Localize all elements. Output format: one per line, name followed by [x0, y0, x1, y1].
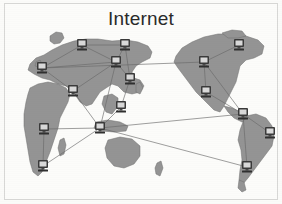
landmass-north-america	[174, 34, 264, 112]
figure-title: Internet	[0, 8, 282, 30]
computer-icon[interactable]	[114, 99, 128, 114]
computer-icon[interactable]	[75, 37, 89, 52]
landmass-scandinavia	[50, 32, 64, 44]
computer-icon[interactable]	[199, 84, 213, 99]
computer-icon[interactable]	[123, 71, 137, 86]
computer-icon[interactable]	[35, 60, 49, 75]
computer-icon[interactable]	[118, 37, 132, 52]
computer-icon[interactable]	[236, 106, 250, 121]
network-link	[100, 114, 243, 128]
computer-icon[interactable]	[66, 83, 80, 98]
computer-icon[interactable]	[240, 159, 254, 174]
computer-icon[interactable]	[37, 121, 51, 136]
world-map-svg	[0, 0, 282, 204]
landmass-new-zealand	[155, 161, 163, 176]
computer-icon[interactable]	[36, 158, 50, 173]
landmass-australia	[105, 137, 140, 168]
computer-icon[interactable]	[263, 125, 277, 140]
computer-icon[interactable]	[232, 37, 246, 52]
world-map-container	[0, 0, 282, 204]
computer-icon[interactable]	[93, 120, 107, 135]
computer-icon[interactable]	[109, 54, 123, 69]
computer-icon[interactable]	[197, 54, 211, 69]
internet-network-figure: Internet	[0, 0, 282, 204]
